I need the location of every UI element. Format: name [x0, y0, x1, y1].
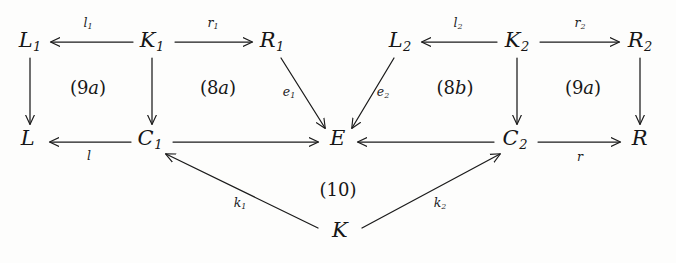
- node-K2: K2: [505, 30, 529, 53]
- region-label-8b: (8b): [436, 79, 473, 97]
- node-R: R: [632, 128, 648, 151]
- region-label-9a-left: (9a): [70, 79, 106, 97]
- node-C1: C1: [138, 128, 163, 151]
- edge-label-e2: e2: [377, 86, 390, 100]
- edge-label-k1: k1: [234, 197, 247, 211]
- edge-label-r: r: [577, 151, 583, 165]
- node-L1: L1: [19, 30, 42, 53]
- math-diagram: L1 K1 R1 L2 K2 R2 L C1 E C2 R K l1 r1 l2…: [0, 0, 676, 263]
- node-L2: L2: [389, 30, 412, 53]
- edge-label-l2: l2: [453, 17, 462, 31]
- region-label-9a-right: (9a): [565, 79, 601, 97]
- node-K1: K1: [140, 30, 164, 53]
- edge-label-r2: r2: [574, 17, 585, 31]
- node-R2: R2: [628, 30, 653, 53]
- arrow-K-to-C2: [362, 154, 500, 228]
- region-label-10: (10): [320, 181, 357, 199]
- node-E: E: [330, 128, 346, 151]
- node-C2: C2: [503, 128, 528, 151]
- node-K: K: [332, 220, 348, 243]
- region-label-8a: (8a): [200, 79, 236, 97]
- node-L: L: [21, 128, 35, 151]
- edge-label-l1: l1: [83, 17, 92, 31]
- arrow-K-to-C1: [166, 154, 318, 228]
- edge-label-k2: k2: [434, 197, 447, 211]
- edge-label-e1: e1: [283, 86, 296, 100]
- node-R1: R1: [260, 30, 285, 53]
- edge-label-r1: r1: [207, 17, 218, 31]
- edge-label-l: l: [87, 150, 91, 164]
